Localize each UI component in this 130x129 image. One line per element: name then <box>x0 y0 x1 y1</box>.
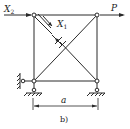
joint-bottom-left <box>32 79 36 83</box>
x1-label: X1 <box>56 19 67 30</box>
x2-label: X2 <box>3 4 14 15</box>
truss-diagram: X2 X1 P a b) <box>0 0 130 129</box>
support-bottom-right-pin <box>87 83 105 96</box>
joint-bottom-right <box>95 79 99 83</box>
x2-load-arrowhead <box>26 13 32 17</box>
p-label: P <box>110 3 118 13</box>
joint-top-left <box>32 13 36 17</box>
support-bottom-left-pin <box>24 83 42 96</box>
p-load-arrowhead <box>119 13 125 17</box>
joint-top-right <box>95 13 99 17</box>
member-diagonal-falling <box>60 42 97 81</box>
figure-caption: b) <box>60 115 68 124</box>
support-left-link <box>17 73 32 89</box>
dimension-label: a <box>61 95 66 105</box>
